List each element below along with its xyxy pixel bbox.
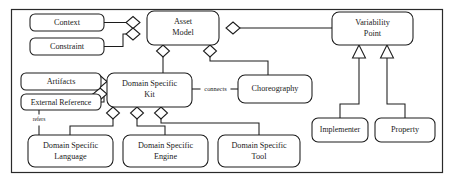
node-domain-specific-kit-label-line1: Domain Specific — [122, 79, 178, 88]
node-asset-model-label-line2: Model — [172, 28, 194, 37]
edge-label-connects: connects — [204, 85, 227, 92]
node-domain-specific-tool-label-line2: Tool — [252, 152, 268, 161]
node-implementer[interactable]: Implementer — [312, 118, 368, 142]
node-choreography-label: Choreography — [252, 84, 300, 93]
aggregation-diamond-choreography — [204, 45, 217, 57]
node-asset-model-label-line1: Asset — [174, 17, 193, 26]
link-asset-model-choreography — [210, 55, 268, 75]
node-property[interactable]: Property — [375, 118, 435, 142]
node-domain-specific-kit-label-line2: Kit — [144, 90, 155, 99]
link-property-variability-point — [387, 58, 405, 118]
node-domain-specific-language[interactable]: Domain Specific Language — [28, 135, 113, 167]
node-asset-model[interactable]: Asset Model — [147, 11, 219, 45]
edge-label-refers: refers — [33, 116, 46, 122]
node-external-reference[interactable]: External Reference — [21, 94, 101, 110]
node-context-label: Context — [54, 18, 81, 27]
node-constraint[interactable]: Constraint — [30, 38, 104, 55]
aggregation-diamond-engine — [131, 107, 144, 119]
node-domain-specific-tool-label-line1: Domain Specific — [231, 141, 287, 150]
uml-diagram-canvas: Context Constraint Asset Model Variabili… — [0, 0, 454, 189]
generalization-triangle-implementer — [353, 45, 366, 58]
node-constraint-label: Constraint — [50, 42, 85, 51]
node-artifacts-label: Artifacts — [47, 77, 76, 86]
aggregation-diamond-kit — [157, 45, 170, 57]
node-artifacts[interactable]: Artifacts — [21, 73, 101, 90]
node-layer: Context Constraint Asset Model Variabili… — [21, 11, 435, 167]
node-implementer-label: Implementer — [320, 125, 361, 134]
node-variability-point-label-line1: Variability — [355, 18, 390, 27]
node-external-reference-label: External Reference — [31, 98, 92, 107]
generalization-triangle-layer — [353, 45, 394, 58]
node-variability-point-label-line2: Point — [364, 29, 382, 38]
uml-diagram-svg: Context Constraint Asset Model Variabili… — [0, 0, 454, 189]
aggregation-diamond-language — [107, 107, 120, 119]
aggregation-diamond-variability — [226, 22, 240, 34]
link-kit-language — [70, 118, 113, 135]
node-variability-point[interactable]: Variability Point — [332, 12, 413, 45]
node-domain-specific-engine-label-line2: Engine — [154, 152, 178, 161]
link-implementer-variability-point — [340, 58, 359, 118]
node-domain-specific-kit[interactable]: Domain Specific Kit — [107, 73, 192, 107]
node-context[interactable]: Context — [30, 14, 104, 31]
aggregation-diamond-tool — [155, 107, 168, 119]
aggregation-diamond-constraint — [126, 28, 140, 40]
node-domain-specific-engine[interactable]: Domain Specific Engine — [123, 135, 208, 167]
generalization-triangle-property — [381, 45, 394, 58]
node-property-label: Property — [391, 125, 420, 134]
node-domain-specific-engine-label-line1: Domain Specific — [138, 141, 194, 150]
link-kit-tool — [161, 118, 259, 135]
node-domain-specific-language-label-line1: Domain Specific — [43, 141, 99, 150]
node-domain-specific-language-label-line2: Language — [54, 152, 87, 161]
aggregation-diamond-context — [126, 17, 140, 29]
node-choreography[interactable]: Choreography — [238, 75, 312, 103]
node-domain-specific-tool[interactable]: Domain Specific Tool — [218, 135, 300, 167]
